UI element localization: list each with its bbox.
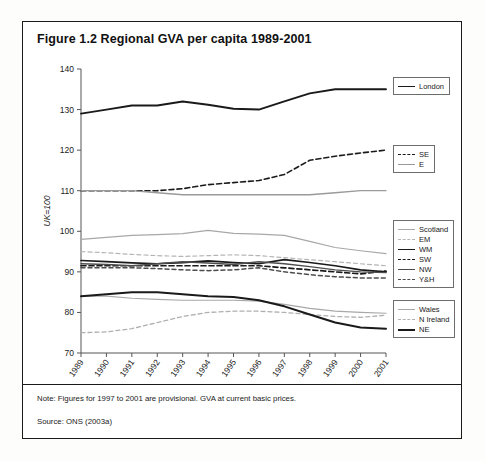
legend-swatch-icon [398, 225, 415, 233]
x-tick-label: 1996 [245, 357, 264, 378]
legend-label: EM [419, 235, 430, 244]
series-line-london [81, 89, 386, 113]
legend-mid[interactable]: ScotlandEMWMSWNWY&H [393, 220, 454, 288]
legend-label: Wales [419, 305, 440, 314]
series-line-e [81, 191, 386, 195]
legend-label: E [419, 160, 424, 169]
x-tick-label: 1991 [117, 357, 136, 378]
legend-swatch-icon [398, 160, 415, 168]
figure-note: Note: Figures for 1997 to 2001 are provi… [37, 394, 296, 403]
legend-item-sw[interactable]: SW [398, 254, 448, 264]
legend-label: NW [419, 265, 432, 274]
y-axis-title: UK=100 [42, 195, 52, 226]
legend-item-wales[interactable]: Wales [398, 304, 449, 314]
series-line-se [81, 150, 386, 191]
y-tick-label: 110 [60, 186, 74, 196]
legend-swatch-icon [398, 265, 415, 273]
legend-label: NE [419, 325, 429, 334]
legend-swatch-icon [398, 325, 415, 333]
legend-label: Y&H [419, 275, 434, 284]
note-divider [23, 384, 461, 385]
figure-container: Figure 1.2 Regional GVA per capita 1989-… [22, 21, 462, 439]
legend-swatch-icon [398, 150, 415, 158]
x-tick-label: 1992 [143, 357, 162, 378]
series-line-n-ireland [81, 311, 386, 333]
series-line-em [81, 252, 386, 266]
y-tick-label: 120 [60, 145, 74, 155]
series-line-scotland [81, 230, 386, 253]
x-tick-label: 1994 [194, 357, 213, 378]
legend-swatch-icon [398, 82, 415, 90]
legend-swatch-icon [398, 235, 415, 243]
legend-label: SE [419, 150, 429, 159]
legend-item-london[interactable]: London [398, 81, 444, 91]
figure-source: Source: ONS (2003a) [37, 417, 112, 426]
legend-item-se[interactable]: SE [398, 149, 429, 159]
legend-item-n-ireland[interactable]: N Ireland [398, 314, 449, 324]
y-tick-label: 70 [65, 348, 75, 358]
y-tick-label: 130 [60, 105, 74, 115]
x-tick-label: 2000 [346, 357, 365, 378]
legend-label: WM [419, 245, 432, 254]
legend-item-scotland[interactable]: Scotland [398, 224, 448, 234]
x-tick-label: 1999 [321, 357, 340, 378]
legend-swatch-icon [398, 305, 415, 313]
chart-axes [81, 69, 386, 353]
legend-item-e[interactable]: E [398, 159, 429, 169]
y-tick-label: 90 [65, 267, 75, 277]
legend-london[interactable]: London [393, 77, 450, 95]
x-tick-label: 1998 [295, 357, 314, 378]
y-tick-label: 140 [60, 64, 74, 74]
legend-item-ne[interactable]: NE [398, 324, 449, 334]
y-tick-label: 80 [65, 307, 75, 317]
x-tick-label: 1990 [92, 357, 111, 378]
x-tick-label: 1993 [168, 357, 187, 378]
legend-item-y-h[interactable]: Y&H [398, 274, 448, 284]
legend-label: N Ireland [419, 315, 449, 324]
y-tick-label: 100 [60, 226, 74, 236]
x-tick-label: 2001 [372, 357, 391, 378]
legend-item-em[interactable]: EM [398, 234, 448, 244]
legend-swatch-icon [398, 255, 415, 263]
legend-label: Scotland [419, 225, 448, 234]
legend-item-wm[interactable]: WM [398, 244, 448, 254]
legend-bottom[interactable]: WalesN IrelandNE [393, 300, 455, 338]
x-tick-label: 1995 [219, 357, 238, 378]
x-tick-label: 1989 [67, 357, 86, 378]
legend-item-nw[interactable]: NW [398, 264, 448, 274]
legend-label: London [419, 82, 444, 91]
legend-swatch-icon [398, 245, 415, 253]
legend-swatch-icon [398, 275, 415, 283]
legend-label: SW [419, 255, 431, 264]
legend-se-e[interactable]: SEE [393, 145, 435, 173]
x-tick-label: 1997 [270, 357, 289, 378]
legend-swatch-icon [398, 315, 415, 323]
